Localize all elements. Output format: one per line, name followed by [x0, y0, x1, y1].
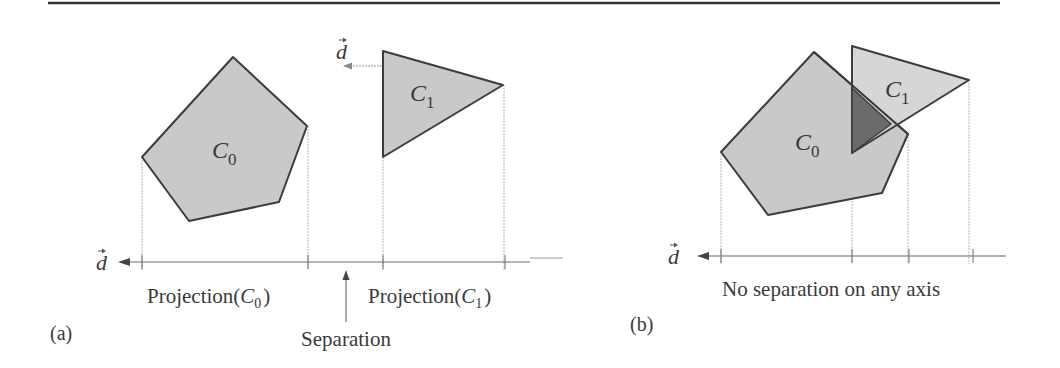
- direction-vector-a: d: [336, 38, 382, 70]
- direction-symbol-a: d: [336, 39, 348, 64]
- projection-c0-label: Projection(C0): [147, 284, 270, 311]
- axis-symbol-b: d: [668, 244, 680, 269]
- separating-axis-diagram: C0 C1 d d Projection(C0: [0, 0, 1060, 368]
- up-arrow-icon: [343, 270, 350, 280]
- axis-arrowhead-icon: [697, 252, 709, 260]
- projection-axis-a: d: [96, 249, 530, 276]
- panel-b: C0 C1 d No separation on any axis (b): [530, 46, 1006, 336]
- axis-symbol-a: d: [96, 250, 108, 275]
- no-separation-caption: No separation on any axis: [722, 277, 940, 301]
- axis-arrowhead-icon: [118, 258, 130, 266]
- projection-c1-label: Projection(C1): [368, 284, 491, 311]
- triangle-c1-a: [383, 51, 503, 157]
- separation-indicator: Separation: [301, 270, 391, 351]
- projection-axis-b: d: [668, 243, 1006, 270]
- panel-a-label: (a): [50, 322, 72, 345]
- panel-b-label: (b): [630, 313, 653, 336]
- separation-label: Separation: [301, 327, 391, 351]
- panel-a: C0 C1 d d Projection(C0: [50, 38, 530, 352]
